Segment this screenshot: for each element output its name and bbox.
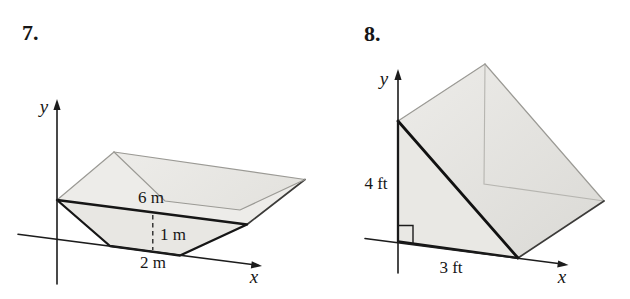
problem-8-figure: 8. y <box>364 21 604 287</box>
problem-7-y-axis-arrow-icon <box>53 99 60 110</box>
problem-8-x-axis-label: x <box>557 266 567 287</box>
problem-7-figure: 7. y x 6 m <box>18 20 305 287</box>
problem-8-y-axis-arrow-icon <box>394 69 401 80</box>
trough-depth-label: 1 m <box>160 225 186 244</box>
problem-7-y-axis-label: y <box>38 96 49 117</box>
trough-bottom-width-label: 2 m <box>140 253 166 272</box>
geometry-problems-figure: 7. y x 6 m <box>0 0 630 299</box>
textbook-figure-panel: 7. y x 6 m <box>0 0 630 299</box>
prism-height-label: 4 ft <box>364 174 387 193</box>
problem-7-number: 7. <box>22 20 39 45</box>
problem-8-number: 8. <box>364 21 381 46</box>
problem-7-x-axis-label: x <box>249 266 259 287</box>
problem-8-y-axis-label: y <box>378 68 389 89</box>
prism-base-label: 3 ft <box>439 258 462 277</box>
trough-top-width-label: 6 m <box>138 188 164 207</box>
